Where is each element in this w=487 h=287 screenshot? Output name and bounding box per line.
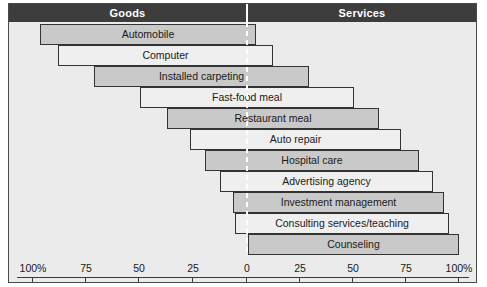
- bar-label: Investment management: [234, 193, 443, 212]
- tick-label: 100%: [446, 262, 473, 275]
- header-label-goods: Goods: [9, 4, 246, 22]
- tick-mark: [299, 277, 300, 282]
- tick-mark: [32, 277, 33, 282]
- bar-label: Computer: [59, 46, 272, 65]
- bar-label: Restaurant meal: [168, 109, 378, 128]
- tick-mark: [192, 277, 193, 282]
- bar-computer: Computer: [58, 45, 273, 66]
- tick-mark: [246, 277, 247, 282]
- bar-label: Consulting services/teaching: [236, 214, 448, 233]
- chart-screenshot: Goods Services AutomobileComputerInstall…: [0, 0, 487, 287]
- tick-label: 50: [347, 262, 359, 275]
- bar-investment-management: Investment management: [233, 192, 444, 213]
- bar-automobile: Automobile: [40, 24, 256, 45]
- bar-label: Auto repair: [191, 130, 400, 149]
- bar-advertising-agency: Advertising agency: [220, 171, 433, 192]
- bar-installed-carpeting: Installed carpeting: [94, 66, 309, 87]
- bar-label: Fast-food meal: [141, 88, 353, 107]
- bar-restaurant-meal: Restaurant meal: [167, 108, 379, 129]
- bar-consulting-services-teaching: Consulting services/teaching: [235, 213, 449, 234]
- tick-label: 25: [294, 262, 306, 275]
- header-label-services: Services: [248, 4, 476, 22]
- bar-label: Counseling: [249, 235, 458, 254]
- tick-mark: [352, 277, 353, 282]
- tick-label: 100%: [20, 262, 47, 275]
- bar-label: Hospital care: [206, 151, 418, 170]
- bar-label: Installed carpeting: [95, 67, 308, 86]
- bar-hospital-care: Hospital care: [205, 150, 419, 171]
- tick-label: 25: [187, 262, 199, 275]
- bar-label: Advertising agency: [221, 172, 432, 191]
- tick-mark: [138, 277, 139, 282]
- tick-mark: [85, 277, 86, 282]
- tick-label: 75: [80, 262, 92, 275]
- tick-mark: [405, 277, 406, 282]
- chart-header-band: Goods Services: [9, 4, 476, 22]
- tick-label: 0: [244, 262, 250, 275]
- tick-mark: [458, 277, 459, 282]
- plot-area: AutomobileComputerInstalled carpetingFas…: [9, 22, 476, 282]
- bar-fast-food-meal: Fast-food meal: [140, 87, 354, 108]
- bar-auto-repair: Auto repair: [190, 129, 401, 150]
- bar-label: Automobile: [41, 25, 255, 44]
- tick-label: 50: [133, 262, 145, 275]
- bar-counseling: Counseling: [248, 234, 459, 255]
- tick-label: 75: [400, 262, 412, 275]
